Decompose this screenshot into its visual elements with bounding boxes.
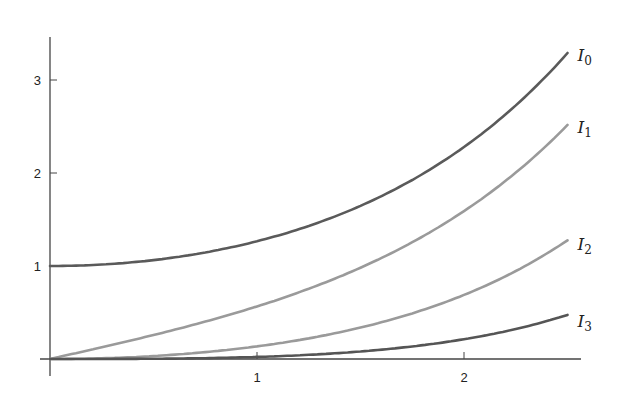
bessel-function-chart: 123 12 I0I1I2I3 bbox=[0, 0, 628, 407]
y-tick-label: 3 bbox=[34, 73, 41, 88]
series-labels: I0I1I2I3 bbox=[577, 45, 592, 334]
y-tick-label: 2 bbox=[34, 166, 41, 181]
series-label-i2: I2 bbox=[577, 234, 592, 257]
series-line-i3 bbox=[50, 315, 568, 359]
y-tick-label: 1 bbox=[34, 259, 41, 274]
x-tick-label: 1 bbox=[253, 370, 260, 385]
series-line-i1 bbox=[50, 125, 568, 359]
series-label-i3: I3 bbox=[577, 311, 592, 334]
x-tick-label: 2 bbox=[460, 370, 467, 385]
series-label-i1: I1 bbox=[577, 117, 592, 140]
series-lines bbox=[50, 53, 568, 359]
series-label-i0: I0 bbox=[577, 45, 592, 68]
series-line-i0 bbox=[50, 53, 568, 266]
y-ticks: 123 bbox=[34, 73, 57, 274]
